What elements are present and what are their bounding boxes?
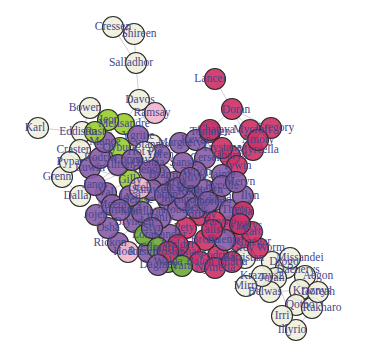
graph-node[interactable] bbox=[308, 282, 329, 303]
graph-node[interactable] bbox=[80, 98, 101, 119]
graph-node[interactable] bbox=[145, 103, 166, 124]
graph-node[interactable] bbox=[148, 255, 169, 276]
graph-node[interactable] bbox=[126, 53, 147, 74]
graph-node[interactable] bbox=[200, 120, 221, 141]
graph-node[interactable] bbox=[28, 118, 49, 139]
graph-node[interactable] bbox=[172, 256, 193, 277]
graph-node[interactable] bbox=[142, 218, 163, 239]
graph-node[interactable] bbox=[212, 138, 233, 159]
graph-canvas bbox=[0, 0, 376, 363]
graph-node[interactable] bbox=[60, 152, 81, 173]
graph-node[interactable] bbox=[110, 200, 131, 221]
graph-node[interactable] bbox=[122, 150, 143, 171]
graph-node[interactable] bbox=[202, 220, 223, 241]
graph-node[interactable] bbox=[205, 69, 226, 90]
graph-node[interactable] bbox=[180, 168, 201, 189]
graph-node[interactable] bbox=[118, 242, 139, 263]
graph-node[interactable] bbox=[280, 248, 301, 269]
graph-node[interactable] bbox=[222, 252, 243, 273]
graph-node[interactable] bbox=[85, 122, 106, 143]
graph-node[interactable] bbox=[130, 178, 151, 199]
network-graph-figure: CressenShireenSalladhorDavosLancelDoranB… bbox=[0, 0, 376, 363]
graph-node[interactable] bbox=[226, 172, 247, 193]
nodes-group bbox=[28, 17, 329, 341]
graph-node[interactable] bbox=[103, 17, 124, 38]
graph-node[interactable] bbox=[85, 175, 106, 196]
graph-node[interactable] bbox=[236, 276, 257, 297]
graph-node[interactable] bbox=[124, 24, 145, 45]
graph-node[interactable] bbox=[248, 130, 269, 151]
graph-node[interactable] bbox=[222, 99, 243, 120]
graph-node[interactable] bbox=[230, 214, 251, 235]
graph-node[interactable] bbox=[272, 306, 293, 327]
